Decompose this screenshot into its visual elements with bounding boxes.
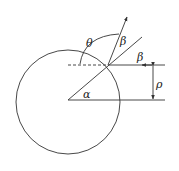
label-alpha: α — [83, 88, 91, 101]
label-rho: ρ — [155, 78, 163, 91]
label-beta-incident: β — [136, 51, 143, 64]
label-beta-refracted: β — [119, 35, 126, 48]
normal-line — [68, 37, 142, 100]
label-theta: θ — [86, 37, 93, 50]
refraction-diagram: θ β β ρ α — [0, 0, 179, 171]
droplet-circle — [16, 50, 120, 154]
